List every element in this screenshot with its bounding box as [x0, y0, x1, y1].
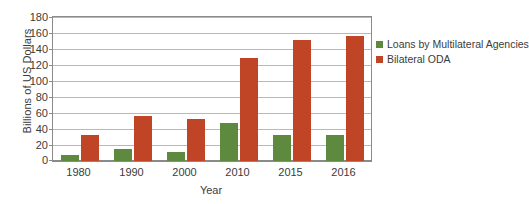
bar — [81, 135, 99, 161]
bar-group — [114, 17, 152, 161]
x-tick-label: 2015 — [278, 166, 302, 178]
bar — [61, 155, 79, 161]
x-tick-label: 2000 — [172, 166, 196, 178]
y-axis-title: Billions of US Dollars — [21, 1, 33, 161]
bar — [220, 123, 238, 161]
bar — [293, 40, 311, 161]
legend-label: Loans by Multilateral Agencies — [387, 38, 529, 50]
legend-swatch-icon — [376, 56, 383, 63]
y-tick-label: 0 — [42, 154, 48, 166]
legend-swatch-icon — [376, 41, 383, 48]
bar — [167, 152, 185, 161]
x-tick-label: 1990 — [119, 166, 143, 178]
bar-group — [273, 17, 311, 161]
x-tick-label: 2010 — [225, 166, 249, 178]
x-tick-label: 2016 — [331, 166, 355, 178]
chart-legend: Loans by Multilateral AgenciesBilateral … — [376, 38, 522, 68]
bar — [273, 135, 291, 161]
legend-item[interactable]: Bilateral ODA — [376, 53, 522, 65]
x-tick-label: 1980 — [66, 166, 90, 178]
legend-item[interactable]: Loans by Multilateral Agencies — [376, 38, 522, 50]
bars-layer — [53, 17, 371, 161]
bar-group — [167, 17, 205, 161]
bar-group — [61, 17, 99, 161]
y-tick-label: 40 — [36, 123, 48, 135]
bar-group — [326, 17, 364, 161]
legend-label: Bilateral ODA — [387, 53, 451, 65]
bar — [240, 58, 258, 161]
y-tick-label: 60 — [36, 107, 48, 119]
bar — [134, 116, 152, 161]
y-tick-label: 80 — [36, 91, 48, 103]
x-axis-title: Year — [52, 184, 370, 196]
plot-area: 020406080100120140160180 — [52, 16, 372, 162]
bar — [187, 119, 205, 161]
bar — [346, 36, 364, 161]
bar — [114, 149, 132, 161]
bar-group — [220, 17, 258, 161]
y-tick-label: 20 — [36, 139, 48, 151]
bar — [326, 135, 344, 161]
